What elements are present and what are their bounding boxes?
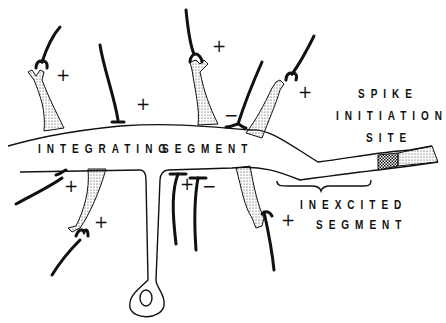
axon-stippled-tail	[398, 146, 438, 166]
synapse-sign-excitatory: +	[298, 84, 312, 101]
synapse-sign-excitatory: +	[94, 214, 108, 231]
label-spike: SPIKE	[358, 87, 418, 101]
synapse-sign-inhibitory: −	[202, 178, 216, 195]
synapse-sign-inhibitory: −	[224, 107, 238, 124]
label-site: SITE	[366, 131, 412, 145]
label-inexcited: INEXCITED	[300, 198, 407, 212]
inexcited-segment-brace	[277, 180, 371, 191]
synapse-sign-excitatory: +	[281, 212, 295, 229]
label-inexcited-segment: SEGMENT	[316, 218, 407, 232]
label-initiation: INITIATION	[336, 109, 446, 123]
synapse-sign-excitatory: +	[64, 178, 78, 195]
synapse-sign-excitatory: +	[212, 38, 226, 55]
synapse-sign-excitatory: +	[136, 96, 150, 113]
synapse-sign-excitatory: +	[56, 67, 70, 84]
label-integrating: INTEGRATING	[38, 142, 172, 156]
label-segment: SEGMENT	[162, 142, 253, 156]
synapse-sign-excitatory: +	[180, 176, 194, 193]
soma-nucleus	[140, 290, 152, 306]
